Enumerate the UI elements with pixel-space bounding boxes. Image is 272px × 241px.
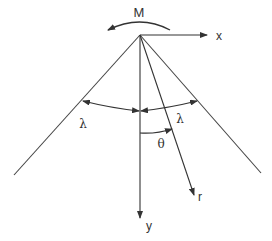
theta-arc [140,129,172,133]
left-lambda-label: λ [79,117,87,131]
wedge-right-edge [140,35,261,173]
radial-r-label: r [198,190,202,204]
x-axis-label: x [216,29,222,43]
wedge-diagram: M x y r λ λ θ [0,0,272,241]
right-lambda-arc [141,101,197,111]
left-lambda-arc [83,101,139,111]
moment-label: M [134,5,145,20]
radial-r-arrow [140,35,194,195]
right-lambda-label: λ [176,112,184,126]
theta-label: θ [157,137,164,151]
wedge-left-edge [14,35,140,175]
moment-arc-arrow [108,22,170,30]
y-axis-label: y [146,219,152,233]
